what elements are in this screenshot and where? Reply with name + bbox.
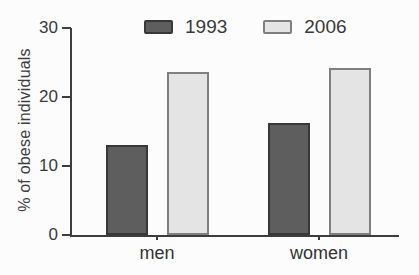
bar-men-1993 <box>106 145 148 235</box>
x-category-label-men: men <box>139 243 174 264</box>
y-axis-tick-label: 10 <box>20 156 58 176</box>
plot-area: 0102030menwomen <box>70 28 399 237</box>
y-axis-tick-label: 30 <box>20 18 58 38</box>
y-axis-tick <box>62 27 71 29</box>
x-axis-tick <box>318 235 320 240</box>
x-category-label-women: women <box>290 243 348 264</box>
x-axis-tick <box>156 235 158 240</box>
bar-women-2006 <box>329 68 371 235</box>
y-axis-tick <box>62 165 71 167</box>
y-axis-tick-label: 0 <box>20 225 58 245</box>
bar-women-1993 <box>268 123 310 236</box>
y-axis-tick <box>62 234 71 236</box>
y-axis-tick <box>62 96 71 98</box>
bar-men-2006 <box>167 72 209 236</box>
bar-chart-figure: % of obese individuals 19932006 0102030m… <box>0 0 419 275</box>
y-axis-tick-label: 20 <box>20 87 58 107</box>
y-axis-label: % of obese individuals <box>16 48 34 212</box>
